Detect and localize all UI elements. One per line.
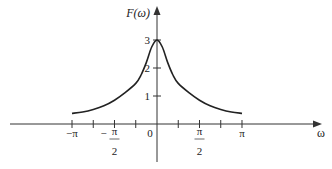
y-tick-label: 1 — [145, 90, 151, 102]
x-tick-label-denominator: 2 — [112, 145, 118, 157]
x-tick-label: −π — [66, 127, 78, 139]
x-ticks: −π−π2π2π — [66, 120, 245, 157]
x-tick-label-denominator: 2 — [197, 145, 203, 157]
x-axis-label: ω — [317, 126, 325, 140]
y-axis-arrow-icon — [154, 6, 161, 15]
x-tick-label: π — [239, 127, 245, 139]
y-axis-label: F(ω) — [125, 6, 150, 20]
y-tick-label: 3 — [145, 34, 151, 46]
origin-label: 0 — [147, 127, 153, 139]
x-tick-label-numerator: π — [112, 125, 118, 137]
axes — [10, 12, 316, 162]
fourier-magnitude-chart: −π−π2π2π 123 F(ω) ω 0 — [0, 0, 332, 169]
x-tick-label-numerator: π — [197, 125, 203, 137]
x-tick-label-sign: − — [100, 127, 106, 139]
